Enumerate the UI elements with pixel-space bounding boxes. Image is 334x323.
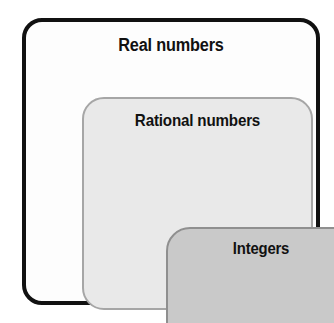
number-sets-diagram: Real numbers Rational numbers Integers W…	[0, 0, 334, 323]
set-label-rational-numbers: Rational numbers	[93, 112, 302, 129]
set-region-rational-numbers: Rational numbers Integers Whole numbers	[82, 97, 313, 310]
set-label-real-numbers: Real numbers	[36, 36, 306, 54]
set-region-integers: Integers Whole numbers	[166, 227, 334, 323]
set-region-real-numbers: Real numbers Rational numbers Integers W…	[22, 18, 320, 305]
set-label-integers: Integers	[175, 241, 334, 258]
